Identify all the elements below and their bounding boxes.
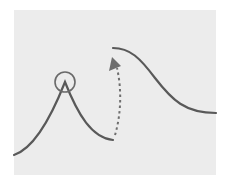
diagram-canvas (0, 0, 228, 183)
diagram-svg (0, 0, 228, 183)
diagram-panel (14, 10, 216, 175)
